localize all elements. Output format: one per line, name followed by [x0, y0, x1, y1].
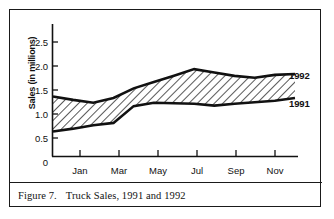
figure-caption: Figure 7. Truck Sales, 1991 and 1992: [10, 183, 322, 207]
plot-svg: [10, 10, 322, 182]
figure-caption-text: Truck Sales, 1991 and 1992: [66, 190, 186, 201]
chart-area: Sales (in millions) 2.5 2.0 1.5 1.0 0.5 …: [10, 10, 322, 182]
figure-frame: Sales (in millions) 2.5 2.0 1.5 1.0 0.5 …: [9, 9, 321, 207]
figure-caption-label: Figure 7.: [18, 190, 57, 201]
series-group: [53, 69, 295, 131]
x-axis-ticks: [80, 150, 275, 157]
